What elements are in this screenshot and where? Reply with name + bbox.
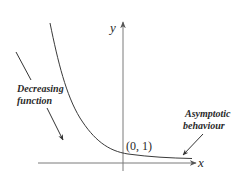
decreasing-slope-line	[16, 52, 31, 80]
decreasing-arrow	[47, 108, 63, 140]
asymptotic-label-line1: Asymptotic	[184, 108, 231, 119]
asymptotic-label-line2: behaviour	[183, 120, 225, 131]
exponential-decay-diagram: x y (0, 1) Decreasing function Asymptoti…	[0, 0, 244, 180]
point-label: (0, 1)	[126, 139, 152, 153]
asymptotic-arrow	[183, 134, 203, 155]
x-axis-label: x	[197, 155, 204, 170]
decreasing-label-line2: function	[17, 95, 52, 106]
decay-curve	[50, 23, 192, 159]
y-axis-label: y	[108, 20, 116, 35]
decreasing-label-line1: Decreasing	[16, 83, 64, 94]
